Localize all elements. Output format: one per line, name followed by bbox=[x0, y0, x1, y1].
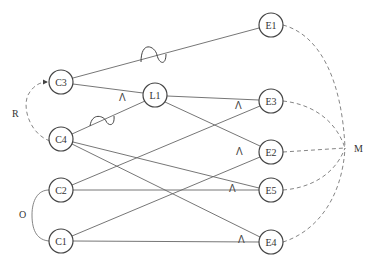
node-label: C4 bbox=[55, 134, 67, 145]
group-r-arc bbox=[26, 82, 50, 141]
m-arc-e3 bbox=[283, 101, 345, 148]
node-e5[interactable]: E5 bbox=[259, 178, 283, 202]
wave-icon bbox=[141, 47, 166, 63]
node-c2[interactable]: C2 bbox=[49, 178, 73, 202]
m-arc-e5 bbox=[283, 148, 345, 190]
edge-c1-e4 bbox=[73, 241, 259, 242]
edge-c4-l1 bbox=[72, 101, 145, 134]
edge-l1-e2 bbox=[165, 102, 260, 146]
wedge-icon: Λ bbox=[119, 92, 126, 103]
m-arc-e2 bbox=[283, 148, 345, 152]
wedge-icon: Λ bbox=[229, 183, 236, 194]
m-arc-e1 bbox=[283, 25, 345, 148]
edge-c1-e2 bbox=[72, 157, 260, 236]
node-label: E1 bbox=[265, 20, 276, 31]
m-arc-e4 bbox=[283, 148, 345, 242]
group-m-arcs bbox=[283, 25, 345, 242]
wedge-icon: Λ bbox=[236, 146, 243, 157]
node-e3[interactable]: E3 bbox=[259, 89, 283, 113]
edges bbox=[72, 28, 260, 242]
edge-c3-e1 bbox=[73, 28, 259, 78]
group-o-label: O bbox=[19, 209, 26, 220]
edge-c4-e5 bbox=[73, 142, 259, 188]
node-label: E4 bbox=[265, 237, 276, 248]
node-e2[interactable]: E2 bbox=[259, 140, 283, 164]
group-r-label: R bbox=[12, 108, 19, 119]
node-label: E3 bbox=[265, 96, 276, 107]
node-label: C3 bbox=[55, 77, 67, 88]
group-m-label: M bbox=[354, 143, 363, 154]
edge-c3-l1 bbox=[73, 84, 143, 93]
wedge-icon: Λ bbox=[235, 100, 242, 111]
group-o-arc bbox=[32, 190, 49, 241]
node-label: C1 bbox=[55, 236, 67, 247]
diagram-canvas: Λ Λ Λ Λ Λ R O M C3 C4 C2 C1 L1 E1 E3 E2 … bbox=[0, 0, 374, 271]
node-e4[interactable]: E4 bbox=[259, 230, 283, 254]
node-c4[interactable]: C4 bbox=[49, 127, 73, 151]
node-l1[interactable]: L1 bbox=[143, 83, 167, 107]
edge-c2-e3 bbox=[72, 106, 260, 185]
node-e1[interactable]: E1 bbox=[259, 13, 283, 37]
edge-l1-e3 bbox=[167, 96, 259, 100]
node-label: E2 bbox=[265, 147, 276, 158]
node-c3[interactable]: C3 bbox=[49, 70, 73, 94]
wedge-icon: Λ bbox=[238, 234, 245, 245]
node-label: L1 bbox=[149, 90, 160, 101]
node-c1[interactable]: C1 bbox=[49, 229, 73, 253]
node-label: E5 bbox=[265, 185, 276, 196]
node-label: C2 bbox=[55, 185, 67, 196]
